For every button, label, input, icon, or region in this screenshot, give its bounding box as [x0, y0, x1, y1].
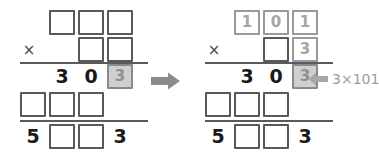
partial2-box-hundreds[interactable]: [49, 92, 75, 117]
multiplicand-row-before: [0, 10, 175, 36]
partial2-box-hundreds-after[interactable]: [234, 92, 260, 117]
multiplicand-box-hundreds[interactable]: [49, 10, 75, 35]
partial2-box-thousands[interactable]: [20, 92, 46, 117]
partial1-digit-tens-after: 0: [263, 64, 289, 89]
multiplier-box-ones[interactable]: [107, 37, 133, 62]
cell-value: 0: [265, 12, 287, 33]
partial-product-2-row-before: [0, 92, 175, 118]
sum-rule-after: [205, 120, 333, 122]
multiplier-box-tens[interactable]: [78, 37, 104, 62]
left-arrow-icon: [308, 72, 328, 86]
multiplier-row-before: ×: [0, 37, 175, 63]
multiplicand-box-ones-filled[interactable]: 1: [292, 10, 318, 35]
multiplicand-box-tens[interactable]: [78, 10, 104, 35]
total-digit-thousands: 5: [20, 124, 46, 149]
cell-value: 3: [294, 39, 316, 60]
partial2-box-tens[interactable]: [78, 92, 104, 117]
total-digit-ones-after: 3: [292, 124, 318, 149]
total-row-after: 5 3: [185, 124, 360, 150]
right-arrow-icon: [151, 72, 181, 90]
partial2-box-thousands-after[interactable]: [205, 92, 231, 117]
multiplication-sign-after: ×: [205, 39, 223, 61]
multiplicand-row-after: 1 0 1: [185, 10, 360, 36]
partial1-digit-tens: 0: [78, 64, 104, 89]
cell-value: 3: [109, 66, 131, 87]
partial2-box-tens-after[interactable]: [263, 92, 289, 117]
annotation: 3×101: [308, 68, 379, 90]
partial-product-1-row-before: 3 0 3: [0, 64, 175, 90]
sum-rule-before: [20, 120, 148, 122]
partial1-digit-hundreds: 3: [49, 64, 75, 89]
multiplier-row-after: × 3: [185, 37, 360, 63]
multiplication-sign-before: ×: [20, 39, 38, 61]
total-box-hundreds[interactable]: [49, 124, 75, 149]
total-row-before: 5 3: [0, 124, 175, 150]
multiplier-box-ones-filled[interactable]: 3: [292, 37, 318, 62]
multiplicand-box-hundreds-filled[interactable]: 1: [234, 10, 260, 35]
multiplier-box-tens-after[interactable]: [263, 37, 289, 62]
partial-product-2-row-after: [185, 92, 360, 118]
total-digit-ones: 3: [107, 124, 133, 149]
multiplicand-box-tens-filled[interactable]: 0: [263, 10, 289, 35]
multiplicand-box-ones[interactable]: [107, 10, 133, 35]
partial1-digit-hundreds-after: 3: [234, 64, 260, 89]
partial1-box-ones-highlighted[interactable]: 3: [107, 64, 133, 89]
total-box-tens-after[interactable]: [263, 124, 289, 149]
cell-value: 1: [294, 12, 316, 33]
puzzle-before-panel: × 3 0 3: [0, 0, 175, 157]
cell-value: 1: [236, 12, 258, 33]
total-box-tens[interactable]: [78, 124, 104, 149]
annotation-text: 3×101: [332, 70, 379, 88]
total-box-hundreds-after[interactable]: [234, 124, 260, 149]
total-digit-thousands-after: 5: [205, 124, 231, 149]
